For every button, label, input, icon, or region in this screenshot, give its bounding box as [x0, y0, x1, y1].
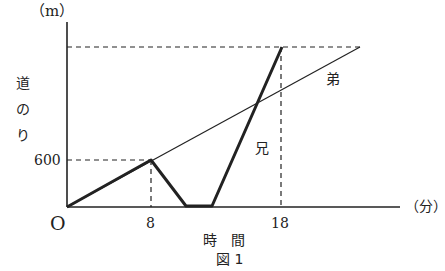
figure-caption: 図 1 [216, 252, 243, 266]
y-label-char-2: の [16, 102, 30, 116]
x-axis-label: 時 間 [203, 233, 245, 247]
x-unit-label: （分） [405, 199, 445, 213]
y-unit-label: （m） [30, 4, 74, 19]
x-tick-18: 18 [271, 216, 289, 230]
older-brother-label: 兄 [255, 141, 269, 155]
younger-brother-label: 弟 [326, 72, 340, 86]
y-label-char-1: 道 [16, 76, 30, 90]
distance-time-graph [0, 0, 445, 271]
older-brother-line [67, 47, 282, 207]
y-label-char-3: り [16, 128, 30, 142]
origin-label: O [50, 214, 66, 233]
x-tick-8: 8 [146, 216, 155, 230]
y-tick-600: 600 [34, 153, 61, 167]
